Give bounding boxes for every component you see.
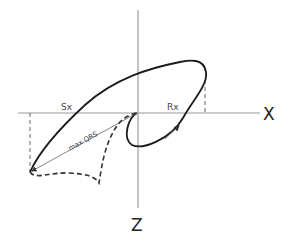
x-axis-label: X xyxy=(263,104,275,124)
qrs-loop xyxy=(30,61,206,172)
dashed-loop xyxy=(30,113,137,183)
rx-label: Rx xyxy=(167,102,179,112)
sx-label: Sx xyxy=(61,102,73,112)
vector-loop-diagram: X Z Sx Rx max QRS xyxy=(0,0,286,244)
direction-arrow xyxy=(165,126,179,139)
z-axis-label: Z xyxy=(131,215,143,235)
max-qrs-label: max QRS xyxy=(67,130,100,153)
